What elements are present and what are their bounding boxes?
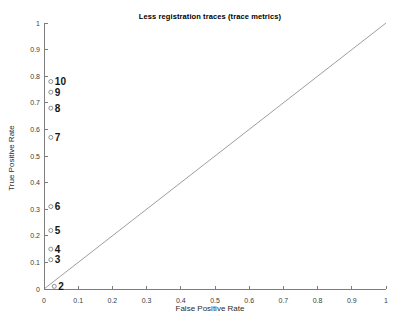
x-tick-label: 0.9 bbox=[347, 297, 357, 304]
x-tick-label: 0.7 bbox=[279, 297, 289, 304]
x-tick-label: 0 bbox=[42, 297, 46, 304]
data-point-marker bbox=[49, 106, 53, 110]
roc-chart-figure: Less registration traces (trace metrics)… bbox=[0, 0, 395, 328]
y-tick-label: 1 bbox=[36, 20, 40, 27]
data-point-marker bbox=[49, 228, 53, 232]
x-tick-label: 0.6 bbox=[244, 297, 254, 304]
data-point-marker bbox=[49, 205, 53, 209]
data-point-label: 10 bbox=[55, 76, 67, 87]
data-point-label: 6 bbox=[55, 201, 61, 212]
y-tick-label: 0.5 bbox=[30, 153, 40, 160]
y-tick-label: 0.2 bbox=[30, 232, 40, 239]
x-axis-label: False Positive Rate bbox=[40, 304, 380, 313]
x-tick-label: 0.1 bbox=[73, 297, 83, 304]
y-tick-label: 0.7 bbox=[30, 99, 40, 106]
data-point-marker bbox=[49, 90, 53, 94]
y-tick-label: 0 bbox=[36, 286, 40, 293]
y-tick-label: 0.3 bbox=[30, 206, 40, 213]
y-tick-label: 0.1 bbox=[30, 259, 40, 266]
x-tick-label: 0.8 bbox=[313, 297, 323, 304]
data-point-label: 5 bbox=[55, 225, 61, 236]
data-point-label: 9 bbox=[55, 87, 61, 98]
data-point-marker bbox=[49, 135, 53, 139]
data-point-label: 3 bbox=[55, 254, 61, 265]
y-tick-label: 0.8 bbox=[30, 73, 40, 80]
x-tick-label: 0.5 bbox=[210, 297, 220, 304]
data-point-marker bbox=[49, 80, 53, 84]
x-tick-label: 1 bbox=[384, 297, 388, 304]
data-point-label: 8 bbox=[55, 103, 61, 114]
y-tick-label: 0.6 bbox=[30, 126, 40, 133]
data-point-marker bbox=[52, 284, 56, 288]
data-point-label: 2 bbox=[58, 281, 64, 292]
x-tick-label: 0.3 bbox=[142, 297, 152, 304]
x-tick-label: 0.4 bbox=[176, 297, 186, 304]
plot-svg: 00.10.20.30.40.50.60.70.80.9100.10.20.30… bbox=[0, 0, 395, 328]
data-point-marker bbox=[49, 258, 53, 262]
x-tick-label: 0.2 bbox=[108, 297, 118, 304]
data-point-label: 4 bbox=[55, 244, 61, 255]
y-tick-label: 0.9 bbox=[30, 46, 40, 53]
data-point-label: 7 bbox=[55, 132, 61, 143]
y-tick-label: 0.4 bbox=[30, 179, 40, 186]
diagonal-reference-line bbox=[44, 23, 386, 289]
data-point-marker bbox=[49, 247, 53, 251]
